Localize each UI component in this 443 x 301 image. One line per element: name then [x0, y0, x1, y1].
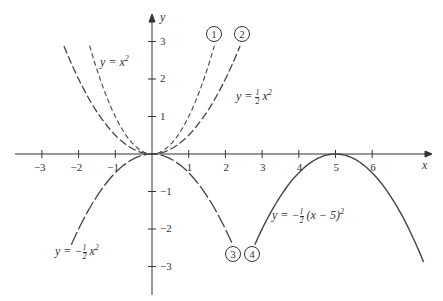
x-tick-label: 1: [187, 161, 193, 173]
y-tick-label: −3: [160, 260, 172, 272]
curve-4-label: y = −12 (x − 5)2: [272, 207, 344, 225]
curve-2-label: y = 12 x2: [236, 88, 272, 106]
y-axis-label: y: [160, 10, 165, 25]
curve-2-marker: 2: [234, 26, 250, 42]
y-tick-label: 1: [160, 110, 166, 122]
x-tick-label: −3: [34, 161, 46, 173]
x-tick-label: 4: [297, 161, 303, 173]
y-tick-label: −1: [160, 185, 172, 197]
x-axis-arrow-icon: [425, 151, 432, 157]
x-tick-label: −2: [71, 161, 83, 173]
y-tick-label: −2: [160, 222, 172, 234]
graph-figure: x y y = x2 y = 12 x2 y = −12 x2 y = −12 …: [0, 0, 443, 301]
y-tick-label: 3: [160, 35, 166, 47]
x-tick-label: 6: [370, 161, 376, 173]
curve-3-label: y = −12 x2: [55, 243, 99, 261]
x-tick-label: 3: [260, 161, 266, 173]
curve-1-marker: 1: [206, 26, 222, 42]
curve-4-marker: 4: [244, 246, 260, 262]
x-tick-label: 2: [223, 161, 229, 173]
y-tick-label: 2: [160, 72, 166, 84]
x-axis-label: x: [422, 158, 427, 173]
x-tick-label: 5: [334, 161, 340, 173]
curve-1-label: y = x2: [100, 54, 129, 70]
curve-3-marker: 3: [225, 246, 241, 262]
y-axis-arrow-icon: [149, 14, 155, 22]
x-tick-label: −1: [107, 161, 119, 173]
